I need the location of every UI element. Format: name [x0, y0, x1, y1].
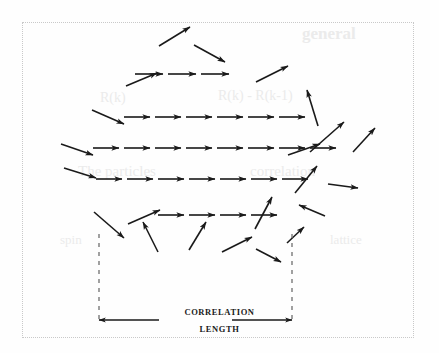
arrow-top-2	[194, 45, 225, 62]
figure-page: generalR(k) - R(k-1)R(k)The particlescor…	[0, 0, 439, 353]
arrow-right-in	[299, 205, 325, 216]
length-label: LENGTH	[0, 324, 439, 334]
correlation-label: CORRELATION	[0, 307, 439, 317]
arrow-mid-right	[328, 184, 358, 188]
spin-field-diagram	[0, 0, 439, 353]
aligned-spin-rows	[93, 74, 336, 215]
arrow-row3-right	[288, 144, 320, 155]
arrow-row5-up	[255, 197, 272, 229]
arrow-row3-left	[61, 144, 93, 155]
arrow-row5-left	[128, 210, 160, 224]
disordered-spin-arrows	[61, 27, 375, 262]
arrow-low-4	[222, 237, 252, 252]
arrow-upper-right	[307, 90, 318, 126]
arrow-row1-right	[256, 66, 288, 82]
arrow-low-2	[143, 222, 158, 252]
arrow-row4-left	[64, 168, 96, 178]
arrow-row2-left	[92, 110, 124, 124]
arrow-top-1	[159, 27, 190, 46]
arrow-low-5	[256, 249, 281, 262]
arrow-row1-left	[126, 73, 157, 86]
arrow-right-up-2	[353, 128, 375, 152]
arrow-low-3	[189, 222, 206, 250]
arrow-low-6	[287, 227, 304, 243]
